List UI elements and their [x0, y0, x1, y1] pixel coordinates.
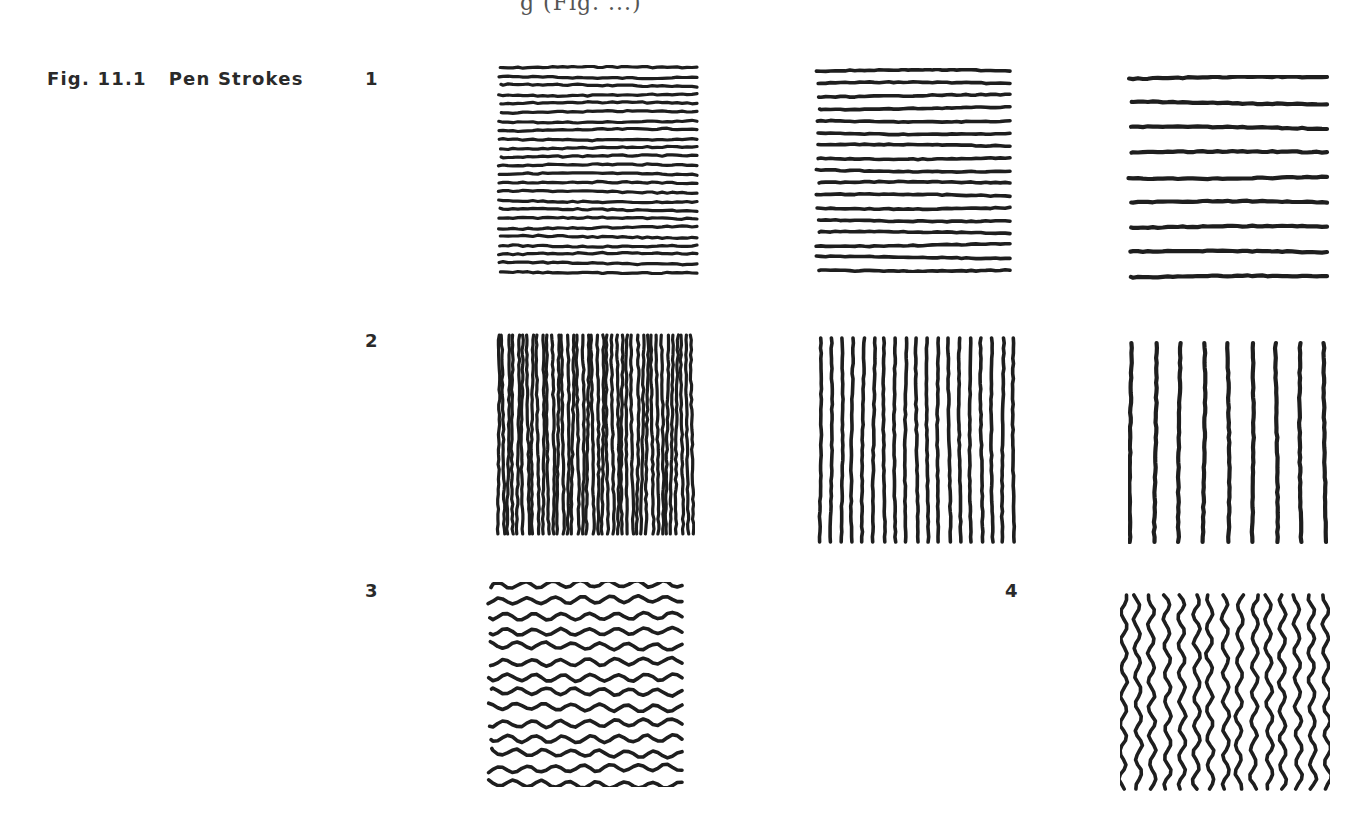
pen-stroke [816, 69, 1010, 71]
pen-stroke [1299, 343, 1301, 542]
pen-stroke [1131, 126, 1327, 129]
pen-stroke [1132, 101, 1327, 104]
pen-stroke [641, 335, 644, 534]
pen-stroke [490, 719, 682, 728]
pen-stroke [948, 338, 951, 542]
pen-stroke [490, 628, 682, 636]
pen-stroke [820, 107, 1010, 110]
pen-stroke [497, 335, 500, 534]
pen-stroke [499, 76, 697, 79]
pen-stroke [819, 94, 1010, 97]
pen-stroke [818, 133, 1010, 135]
pen-stroke [819, 181, 1010, 183]
pen-stroke [498, 190, 697, 193]
pen-stroke [488, 596, 682, 604]
pen-stroke [851, 338, 854, 542]
pen-stroke [586, 335, 589, 534]
pen-stroke [499, 217, 697, 219]
pen-stroke [492, 749, 682, 758]
pen-stroke [557, 335, 560, 534]
pen-stroke [817, 207, 1010, 209]
pen-stroke [489, 703, 682, 711]
pen-stroke [1129, 177, 1328, 179]
pen-stroke [1120, 595, 1127, 789]
pen-stroke [1293, 595, 1302, 789]
pen-stroke [819, 231, 1010, 233]
pen-stroke [680, 335, 683, 534]
pen-stroke [650, 335, 654, 534]
pen-stroke [543, 335, 545, 534]
pen-stroke [1206, 595, 1214, 789]
pen-stroke [499, 181, 697, 183]
pen-stroke [621, 335, 624, 534]
pen-stroke [546, 335, 549, 534]
pen-stroke [905, 338, 907, 542]
pen-stroke [883, 338, 885, 542]
pen-stroke [501, 84, 697, 87]
pen-stroke [937, 338, 939, 542]
pen-stroke [501, 335, 505, 534]
pen-stroke [552, 335, 555, 534]
pen-stroke [507, 335, 510, 534]
pen-stroke [1148, 595, 1157, 789]
pen-stroke [567, 335, 569, 534]
pen-stroke [601, 335, 604, 534]
pen-stroke [499, 226, 697, 230]
pen-stroke [980, 338, 983, 542]
pen-stroke [1221, 595, 1229, 789]
pen-stroke [499, 262, 697, 265]
pen-stroke [492, 688, 683, 696]
row-label-3: 3 [365, 580, 378, 601]
pen-stroke [489, 780, 682, 787]
pen-stroke [1308, 595, 1316, 789]
pen-stroke [491, 735, 682, 743]
pen-stroke [499, 94, 697, 97]
pen-stroke [499, 128, 697, 131]
pen-stroke [816, 244, 1010, 247]
pen-stroke [498, 164, 697, 166]
pen-stroke [501, 146, 698, 149]
pen-stroke [490, 612, 682, 620]
pen-stroke [675, 335, 678, 534]
pen-stroke [499, 252, 697, 254]
pen-stroke [670, 335, 673, 534]
stroke-panel-2b [817, 335, 1017, 545]
pen-stroke [1132, 151, 1328, 153]
pen-stroke [819, 338, 821, 542]
pen-stroke [1193, 595, 1201, 789]
pen-stroke [500, 235, 697, 238]
figure-number: Fig. 11.1 [47, 68, 147, 89]
pen-stroke [490, 642, 682, 650]
pen-stroke [536, 335, 539, 534]
pen-stroke [489, 764, 682, 772]
pen-stroke [499, 173, 697, 176]
stroke-panel-3 [485, 582, 685, 787]
pen-stroke [841, 338, 843, 542]
pen-stroke [1129, 343, 1132, 542]
pen-stroke [1279, 595, 1287, 789]
stroke-panel-2a [495, 332, 695, 537]
pen-stroke [1322, 595, 1330, 789]
pen-stroke [491, 582, 682, 588]
pen-stroke [1250, 595, 1258, 789]
pen-stroke [991, 338, 993, 542]
pen-stroke [1203, 343, 1206, 542]
pen-stroke [501, 111, 697, 114]
pen-stroke [686, 335, 689, 534]
pen-stroke [1131, 226, 1327, 228]
pen-stroke [872, 338, 875, 542]
pen-stroke [969, 338, 971, 542]
pen-stroke [500, 208, 697, 211]
pen-stroke [500, 272, 697, 274]
clipped-heading-fragment: g (Fig. ...) [520, 0, 642, 15]
pen-stroke [597, 335, 600, 534]
stroke-panel-4 [1120, 592, 1330, 792]
pen-stroke [1265, 595, 1273, 789]
row-label-4: 4 [1005, 580, 1018, 601]
pen-stroke [501, 102, 697, 104]
pen-stroke [665, 335, 668, 534]
pen-stroke [816, 170, 1010, 173]
pen-stroke [1275, 343, 1278, 542]
row-label-2: 2 [365, 330, 378, 351]
pen-stroke [915, 338, 918, 542]
